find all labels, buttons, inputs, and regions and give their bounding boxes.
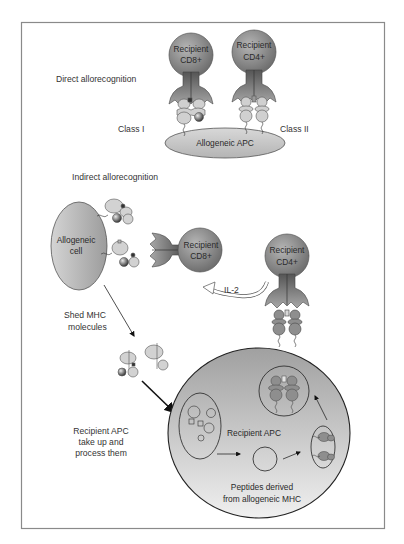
svg-text:cell: cell (70, 246, 83, 256)
class-i-label: Class I (118, 124, 144, 134)
svg-text:CD4+: CD4+ (276, 257, 298, 267)
peptides-label-2: from allogeneic MHC (223, 494, 301, 504)
direct-allorecognition-heading: Direct allorecognition (56, 74, 136, 84)
svg-text:CD8+: CD8+ (190, 251, 212, 261)
svg-text:CD8+: CD8+ (180, 55, 202, 65)
svg-text:Recipient: Recipient (184, 240, 220, 250)
allogeneic-apc-label: Allogeneic APC (196, 138, 254, 148)
il2-label: IL-2 (224, 285, 239, 295)
allorecognition-diagram: Direct allorecognition Allogeneic APC Cl… (0, 0, 404, 544)
direct-cd4-tcell: Recipient CD4+ (232, 30, 276, 104)
shed-mhc-label-2: molecules (68, 322, 107, 332)
svg-text:Recipient: Recipient (237, 40, 273, 50)
uptake-label-2: take up and (79, 437, 124, 447)
shed-mhc-label-1: Shed MHC (64, 310, 106, 320)
recipient-apc: Recipient APC (168, 348, 350, 518)
class-ii-label: Class II (280, 124, 309, 134)
indirect-cd8-tcell: Recipient CD8+ (150, 228, 222, 272)
uptake-label-1: Recipient APC (73, 426, 128, 436)
direct-cd8-tcell: Recipient CD8+ (169, 33, 213, 106)
indirect-allorecognition-heading: Indirect allorecognition (72, 172, 158, 182)
svg-text:Recipient: Recipient (270, 245, 306, 255)
svg-text:Recipient: Recipient (174, 44, 210, 54)
svg-text:Allogeneic: Allogeneic (57, 235, 96, 245)
peptides-label-1: Peptides derived (231, 482, 294, 492)
recipient-apc-label: Recipient APC (227, 428, 281, 438)
uptake-label-3: process them (75, 448, 127, 458)
indirect-cd4-tcell: Recipient CD4+ (265, 234, 309, 308)
svg-text:CD4+: CD4+ (243, 52, 265, 62)
